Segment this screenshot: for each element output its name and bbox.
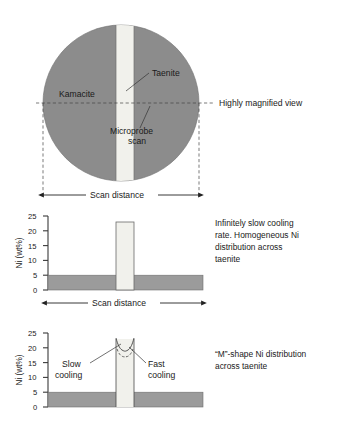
ytick-0-bottom: 0 (33, 403, 37, 412)
ytick-15-bottom: 15 (28, 359, 36, 368)
ytick-10-bottom: 10 (28, 373, 36, 382)
label-scan-distance-middle: Scan distance (92, 298, 146, 308)
label-microprobe-scan-line1: Microprobe (110, 126, 153, 136)
y-axis-label-middle: Ni (wt%) (15, 237, 24, 268)
ytick-25-bottom: 25 (28, 329, 36, 338)
panel-highly-magnified-view: Kamacite Taenite Microprobe scan Highly … (0, 0, 342, 212)
ytick-10-middle: 10 (28, 256, 36, 265)
y-ticks-middle (43, 216, 48, 290)
taenite-bar-middle (116, 222, 134, 290)
annotation-middle-line4: taenite (215, 254, 240, 264)
panel-m-shape-ni-profile: 25 20 15 10 5 0 Ni (wt%) Slow cooling Fa… (0, 325, 342, 438)
ytick-20-bottom: 20 (28, 344, 36, 353)
panel-homogeneous-ni-profile: 25 20 15 10 5 0 Ni (wt%) Scan distance I… (0, 208, 342, 323)
label-microprobe-scan-line2: scan (128, 136, 146, 146)
label-taenite: Taenite (152, 68, 180, 78)
annotation-middle-line2: rate. Homogeneous Ni (215, 230, 299, 240)
ytick-25-middle: 25 (28, 212, 36, 221)
ytick-5-bottom: 5 (33, 388, 37, 397)
annotation-middle-line3: distribution across (215, 242, 283, 252)
annotation-bottom-line2: across taenite (215, 361, 267, 371)
label-scan-distance-top: Scan distance (90, 190, 144, 200)
annotation-bottom-line1: “M”-shape Ni distribution (215, 349, 307, 359)
annotation-middle-line1: Infinitely slow cooling (215, 218, 294, 228)
y-ticks-bottom (43, 333, 48, 407)
meteorite-ni-scan-figure: Kamacite Taenite Microprobe scan Highly … (0, 0, 342, 438)
taenite-band (116, 20, 134, 190)
label-highly-magnified-view: Highly magnified view (219, 98, 303, 108)
ytick-20-middle: 20 (28, 227, 36, 236)
label-fast-cooling-line2: cooling (148, 370, 175, 380)
y-axis-label-bottom: Ni (wt%) (15, 354, 24, 385)
ytick-15-middle: 15 (28, 242, 36, 251)
label-fast-cooling-line1: Fast (148, 359, 165, 369)
ytick-0-middle: 0 (33, 286, 37, 295)
label-slow-cooling-line2: cooling (55, 370, 82, 380)
label-slow-cooling-line1: Slow (62, 359, 81, 369)
ytick-5-middle: 5 (33, 271, 37, 280)
label-kamacite: Kamacite (59, 89, 95, 99)
